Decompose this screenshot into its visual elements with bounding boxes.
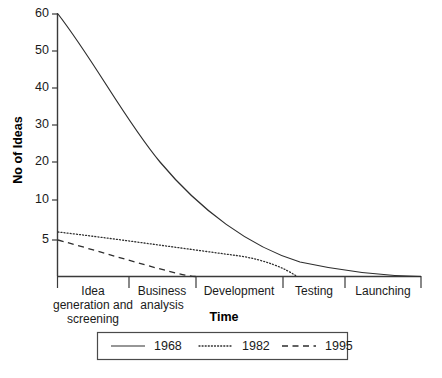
cat-label-1-line2: analysis <box>140 298 183 312</box>
chart-container: No of Ideas 60 50 40 30 20 10 5 <box>0 0 442 378</box>
series-line-1968 <box>58 14 421 277</box>
y-tick-label-40: 40 <box>35 80 49 94</box>
cat-label-0-line1: Idea <box>81 284 105 298</box>
y-tick-label-10: 10 <box>35 192 49 206</box>
y-axis-ticks: 60 50 40 30 20 10 5 <box>35 6 58 246</box>
cat-label-3-line1: Testing <box>295 284 333 298</box>
x-axis-title: Time <box>210 310 239 324</box>
cat-label-0-line3: screening <box>67 312 119 326</box>
series-line-1995 <box>58 240 196 277</box>
cat-label-2-line1: Development <box>204 284 275 298</box>
y-tick-label-20: 20 <box>35 154 49 168</box>
line-chart: No of Ideas 60 50 40 30 20 10 5 <box>0 0 442 378</box>
legend-label-1982: 1982 <box>242 339 270 353</box>
y-tick-label-30: 30 <box>35 117 49 131</box>
legend-label-1995: 1995 <box>325 339 353 353</box>
legend: 1968 1982 1995 <box>98 333 353 360</box>
y-tick-label-60: 60 <box>35 6 49 20</box>
series-line-1982 <box>58 232 297 277</box>
y-tick-label-50: 50 <box>35 43 49 57</box>
y-tick-label-5: 5 <box>42 232 49 246</box>
cat-label-0-line2: generation and <box>53 298 133 312</box>
y-axis-title: No of Ideas <box>11 116 25 183</box>
cat-label-4-line1: Launching <box>355 284 410 298</box>
cat-label-1-line1: Business <box>138 284 187 298</box>
legend-label-1968: 1968 <box>154 339 182 353</box>
